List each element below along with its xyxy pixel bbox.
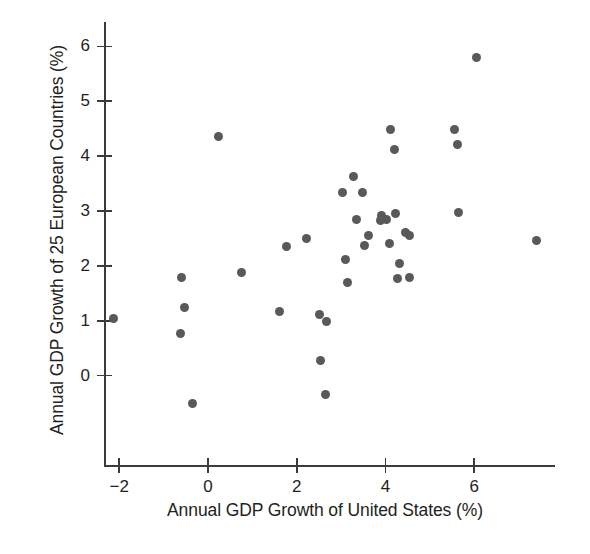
data-point [393,274,402,283]
y-tick-label-wrap: 3 [60,202,90,220]
y-tick-label: 4 [64,147,90,164]
x-tick-0 [207,458,209,473]
y-tick-label-wrap: 1 [60,312,90,330]
y-tick-label: 5 [64,92,90,109]
x-tick-2 [296,458,298,473]
data-point [109,314,118,323]
y-tick-4 [97,155,112,157]
data-point [352,215,361,224]
y-tick-label-wrap: 2 [60,257,90,275]
data-point [338,188,347,197]
data-point [405,273,414,282]
x-tick-label: −2 [99,478,139,496]
plot-area: 0123456 −20246 [0,0,590,554]
data-point [302,234,311,243]
data-point [532,236,541,245]
data-point [453,140,462,149]
y-tick-label: 2 [64,257,90,274]
data-point [454,208,463,217]
x-tick--2 [118,458,120,473]
data-point [180,303,189,312]
data-point [322,317,331,326]
x-axis-line [104,465,555,467]
data-point [364,231,373,240]
x-tick-label-wrap: 6 [454,478,494,498]
y-tick-label-wrap: 6 [60,37,90,55]
data-point [188,399,197,408]
data-point [282,242,291,251]
x-tick-label: 2 [277,478,317,496]
data-point [450,125,459,134]
y-tick-label-wrap: 4 [60,147,90,165]
data-point [358,188,367,197]
y-tick-label: 6 [64,37,90,54]
data-point [360,241,369,250]
y-tick-label: 3 [64,202,90,219]
data-point [349,172,358,181]
y-tick-label-wrap: 5 [60,92,90,110]
data-point [391,209,400,218]
y-axis-line [104,22,106,466]
x-axis-label: Annual GDP Growth of United States (%) [95,500,555,521]
y-tick-label-wrap: 0 [60,367,90,385]
y-tick-label: 1 [64,312,90,329]
data-point [321,390,330,399]
x-tick-4 [385,458,387,473]
data-point [382,215,391,224]
x-tick-label-wrap: −2 [99,478,139,498]
data-point [385,239,394,248]
data-point [316,356,325,365]
x-tick-label: 0 [188,478,228,496]
x-tick-label-wrap: 4 [366,478,406,498]
y-tick-5 [97,100,112,102]
data-point [237,268,246,277]
data-point [405,231,414,240]
data-point [341,255,350,264]
data-point [390,145,399,154]
y-tick-label: 0 [64,367,90,384]
data-point [386,125,395,134]
data-point [343,278,352,287]
y-tick-6 [97,46,112,48]
x-tick-6 [473,458,475,473]
x-tick-label-wrap: 0 [188,478,228,498]
data-point [214,132,223,141]
x-tick-label: 6 [454,478,494,496]
data-point [177,273,186,282]
data-point [176,329,185,338]
data-point [472,53,481,62]
data-point [275,307,284,316]
data-point [395,259,404,268]
y-tick-0 [97,375,112,377]
x-tick-label: 4 [366,478,406,496]
scatter-plot-figure: Annual GDP Growth of 25 European Countri… [0,0,590,554]
y-tick-2 [97,265,112,267]
x-tick-label-wrap: 2 [277,478,317,498]
y-tick-3 [97,210,112,212]
